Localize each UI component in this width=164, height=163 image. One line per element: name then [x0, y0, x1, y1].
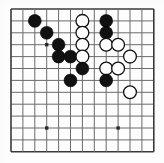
black-stone[interactable]: [100, 26, 113, 39]
white-stone[interactable]: [100, 62, 113, 75]
go-board-canvas[interactable]: [0, 0, 164, 163]
go-diagram-screenshot: [0, 0, 164, 163]
black-stone[interactable]: [40, 26, 53, 39]
white-stone[interactable]: [76, 50, 89, 63]
black-stone[interactable]: [52, 38, 65, 51]
white-stone[interactable]: [76, 38, 89, 51]
black-stone[interactable]: [100, 15, 113, 28]
white-stone[interactable]: [76, 15, 89, 28]
white-stone[interactable]: [112, 38, 125, 51]
star-point: [116, 126, 119, 129]
star-point: [45, 126, 48, 129]
white-stone[interactable]: [100, 38, 113, 51]
black-stone[interactable]: [52, 50, 65, 63]
star-point: [45, 43, 48, 46]
go-board[interactable]: [0, 0, 164, 163]
white-stone[interactable]: [76, 26, 89, 39]
black-stone[interactable]: [76, 62, 89, 75]
black-stone[interactable]: [64, 50, 77, 63]
black-stone[interactable]: [100, 74, 113, 87]
black-stone[interactable]: [28, 15, 41, 28]
black-stone[interactable]: [64, 74, 77, 87]
white-stone[interactable]: [112, 62, 125, 75]
white-stone[interactable]: [124, 86, 137, 99]
white-stone[interactable]: [124, 50, 137, 63]
